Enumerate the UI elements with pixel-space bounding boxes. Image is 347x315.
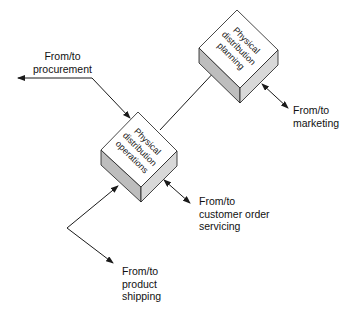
marketing-arrow xyxy=(262,84,288,108)
shipping-label: From/to product shipping xyxy=(122,265,161,303)
marketing-label-line-2: marketing xyxy=(293,117,339,130)
procurement-label: From/to procurement xyxy=(33,50,92,75)
customer-order-label: From/to customer order servicing xyxy=(199,195,270,233)
customer-order-arrow xyxy=(164,180,190,203)
operations-box: Physical distribution operations xyxy=(101,112,177,202)
marketing-label: From/to marketing xyxy=(293,104,339,129)
shipping-arrow xyxy=(67,186,118,263)
procurement-link-arrow xyxy=(92,78,130,118)
customer-label-line-1: From/to xyxy=(199,195,270,208)
procurement-label-line-1: From/to xyxy=(33,50,92,63)
shipping-label-line-1: From/to xyxy=(122,265,161,278)
connector-operations-planning xyxy=(160,68,218,130)
customer-label-line-2: customer order xyxy=(199,208,270,221)
shipping-label-line-2: product xyxy=(122,278,161,291)
procurement-label-line-2: procurement xyxy=(33,63,92,76)
diagram-canvas: Physical distribution planning Physical … xyxy=(0,0,347,315)
marketing-label-line-1: From/to xyxy=(293,104,339,117)
shipping-label-line-3: shipping xyxy=(122,290,161,303)
customer-label-line-3: servicing xyxy=(199,220,270,233)
planning-box: Physical distribution planning xyxy=(199,10,278,103)
